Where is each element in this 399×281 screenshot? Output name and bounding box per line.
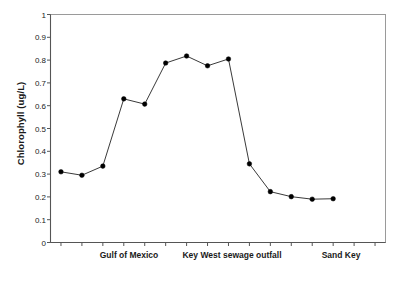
data-point-marker — [142, 102, 147, 107]
data-line — [61, 56, 333, 199]
data-point-marker — [80, 173, 85, 178]
data-point-marker — [59, 170, 64, 175]
data-point-marker — [331, 196, 336, 201]
x-axis-label: Sand Key — [322, 250, 361, 260]
data-point-marker — [247, 162, 252, 167]
data-point-marker — [205, 64, 210, 69]
data-point-marker — [310, 197, 315, 202]
chart-figure: Chlorophyll (ug/L) 00.10.20.30.40.50.60.… — [0, 0, 399, 281]
plot-frame — [51, 15, 386, 243]
data-point-marker — [121, 97, 126, 102]
data-point-marker — [101, 164, 106, 169]
x-axis-label: Gulf of Mexico — [100, 250, 159, 260]
x-axis-label: Key West sewage outfall — [182, 250, 281, 260]
data-point-marker — [226, 57, 231, 62]
data-point-marker — [184, 54, 189, 59]
plot-area — [0, 0, 399, 281]
data-point-marker — [268, 189, 273, 194]
data-point-marker — [163, 61, 168, 66]
data-point-marker — [289, 194, 294, 199]
